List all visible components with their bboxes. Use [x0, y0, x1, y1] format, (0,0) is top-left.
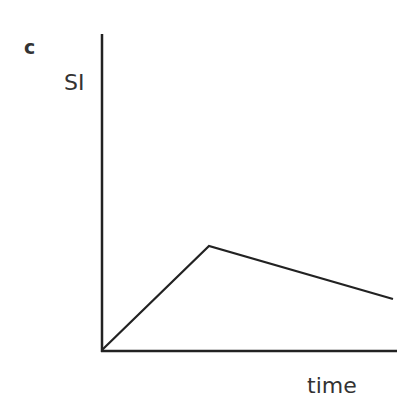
si-curve	[102, 246, 393, 350]
chart-canvas	[0, 0, 412, 407]
